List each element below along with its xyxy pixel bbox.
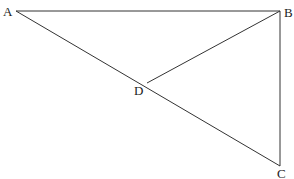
segment-bd [147, 11, 280, 83]
label-b: B [284, 5, 293, 20]
label-c: C [277, 166, 286, 179]
geometry-diagram: A B C D [0, 0, 294, 179]
label-d: D [134, 83, 143, 98]
segment-ac [16, 11, 280, 166]
label-a: A [3, 4, 13, 19]
